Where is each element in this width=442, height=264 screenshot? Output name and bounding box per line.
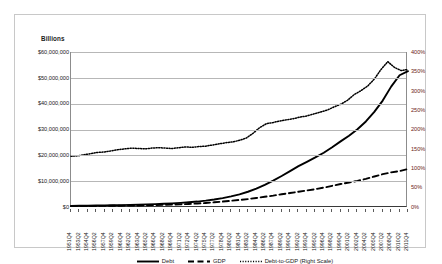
x-axis-tick-label: 1974Q2 [193,232,199,251]
series-line-gdp [71,169,408,206]
x-axis-tick-label: 1996Q4 [319,232,325,251]
x-axis-tick [382,209,383,212]
x-axis-tick [255,209,256,212]
x-axis-tick-label: 1966Q4 [150,232,156,251]
x-axis-tick [272,209,273,212]
x-axis-tick [230,209,231,212]
x-axis-tick [399,209,400,212]
x-axis-tick-label: 1954Q4 [83,232,89,251]
x-axis-tick-label: 1989Q2 [277,232,283,251]
x-axis-tick [146,209,147,212]
right-axis-tick-label: 50% [411,184,422,190]
legend-label: Debt [162,258,174,264]
x-axis-tick-label: 1965Q2 [142,232,148,251]
x-axis-tick-label: 2010Q2 [395,232,401,251]
x-axis-tick-label: 1956Q2 [91,232,97,251]
x-axis-tick-label: 1984Q4 [252,232,258,251]
right-axis-tick-label: 0% [411,204,419,210]
right-axis-tick-label: 200% [411,126,425,132]
gridline [71,130,406,131]
x-axis-tick [87,209,88,212]
legend-item: Debt-to-GDP (Right Scale) [240,258,334,264]
x-axis-tick [180,209,181,212]
x-axis-tick [281,209,282,212]
x-axis-tick-label: 2002Q4 [353,232,359,251]
x-axis-tick-label: 2011Q4 [403,233,409,251]
x-axis-tick-label: 1972Q4 [184,232,190,251]
x-axis-tick [407,209,408,212]
x-axis-tick [104,209,105,212]
x-axis-tick-label: 1960Q4 [117,232,123,251]
x-axis-tick-label: 1957Q4 [100,232,106,251]
x-axis-tick-label: 1987Q4 [268,232,274,251]
x-axis-tick-label: 2004Q2 [361,232,367,251]
chart-legend: DebtGDPDebt-to-GDP (Right Scale) [29,255,441,264]
x-axis-tick [196,209,197,212]
x-axis-tick-label: 2005Q4 [370,232,376,251]
x-axis-tick [264,209,265,212]
left-axis-tick-label: $0 [63,204,69,210]
gridline [71,104,406,105]
x-axis-tick [348,209,349,212]
x-axis-tick-label: 2008Q4 [386,232,392,251]
x-axis-tick [289,209,290,212]
x-axis-tick [323,209,324,212]
x-axis-tick-label: 1978Q4 [218,232,224,251]
right-axis-tick-label: 300% [411,88,425,94]
x-axis-tick-label: 1983Q2 [243,232,249,251]
left-axis-tick-label: $60,000,000 [38,49,69,55]
x-axis-tick [70,209,71,212]
x-axis-tick [129,209,130,212]
right-axis-labels: 0%50%100%150%200%250%300%350%400% [407,52,442,207]
series-line-debt-to-gdp-right-scale [71,62,408,157]
legend-item: Debt [137,258,174,264]
x-axis-tick [314,209,315,212]
x-axis-tick [137,209,138,212]
x-axis-tick-label: 1986Q2 [260,232,266,251]
x-axis-tick [297,209,298,212]
x-axis-tick-label: 2001Q2 [344,232,350,251]
legend-marker-dashed [188,258,210,264]
right-axis-tick-label: 400% [411,49,425,55]
x-axis-labels: 1951Q41953Q21954Q41956Q21957Q41959Q21960… [70,209,407,253]
x-axis-tick [331,209,332,212]
left-axis-tick-label: $50,000,000 [38,75,69,81]
x-axis-tick-label: 1993Q4 [302,232,308,251]
x-axis-tick [163,209,164,212]
x-axis-tick [239,209,240,212]
x-axis-tick-label: 1963Q4 [134,232,140,251]
legend-marker-solid [137,258,159,264]
x-axis-tick-label: 1969Q4 [167,232,173,251]
x-axis-tick-label: 1992Q2 [294,232,300,251]
x-axis-tick [222,209,223,212]
x-axis-tick [205,209,206,212]
x-axis-tick-label: 1971Q2 [176,232,182,251]
x-axis-tick-label: 1980Q2 [226,232,232,251]
left-axis-tick-label: $20,000,000 [38,152,69,158]
x-axis-tick [171,209,172,212]
gridline [71,52,406,53]
x-axis-tick [340,209,341,212]
x-axis-tick [121,209,122,212]
right-axis-tick-label: 100% [411,165,425,171]
x-axis-tick-label: 1953Q2 [75,232,81,251]
x-axis-tick [154,209,155,212]
gridline [71,155,406,156]
x-axis-tick [213,209,214,212]
series-line-debt [71,71,408,206]
x-axis-tick-label: 1999Q4 [336,232,342,251]
x-axis-tick-label: 1951Q4 [66,232,72,251]
plot-area [70,52,407,207]
x-axis-tick [365,209,366,212]
x-axis-tick-label: 1998Q2 [327,232,333,251]
x-axis-tick [373,209,374,212]
x-axis-tick [390,209,391,212]
x-axis-tick-label: 1962Q2 [125,232,131,251]
left-axis-tick-label: $30,000,000 [38,126,69,132]
legend-label: GDP [213,258,226,264]
legend-item: GDP [188,258,226,264]
x-axis-tick-label: 1990Q4 [285,232,291,251]
legend-label: Debt-to-GDP (Right Scale) [265,258,334,264]
x-axis-tick-label: 1968Q2 [159,232,165,251]
x-axis-tick-label: 1995Q2 [311,232,317,251]
